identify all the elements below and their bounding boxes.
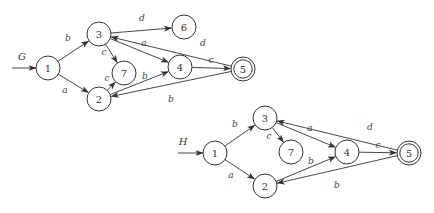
state-label: 1 — [212, 148, 218, 159]
edge-4-to-5 — [192, 67, 231, 68]
edge-3-to-7 — [105, 44, 117, 62]
edge-label: d — [367, 122, 373, 132]
state-label: 6 — [181, 22, 187, 33]
state-label: 2 — [262, 181, 268, 192]
state-node-7: 7 — [279, 140, 303, 164]
graph-h: Hbacabcdb123457 — [178, 106, 421, 198]
edge-label: b — [308, 156, 314, 166]
state-label: 4 — [344, 147, 350, 158]
edge-3-to-4 — [110, 39, 168, 63]
state-node-4: 4 — [168, 55, 192, 79]
graph-name-label: H — [178, 136, 188, 147]
graph-g: Gbadcacbcdb1234567 — [12, 13, 255, 111]
state-node-1: 1 — [203, 141, 227, 165]
state-node-2: 2 — [87, 87, 111, 111]
state-label: 1 — [45, 63, 51, 74]
state-label: 3 — [262, 113, 268, 124]
edge-label: a — [228, 170, 233, 180]
edge-label: a — [141, 38, 146, 48]
edge-label: b — [334, 180, 340, 190]
state-node-2: 2 — [253, 174, 277, 198]
state-label: 5 — [240, 64, 246, 75]
state-label: 2 — [96, 94, 102, 105]
state-label: 4 — [177, 62, 183, 73]
edge-label: b — [232, 119, 238, 129]
graph-name-label: G — [18, 51, 26, 62]
edge-label: c — [208, 55, 213, 65]
state-node-5: 5 — [397, 141, 421, 165]
edge-label: a — [62, 85, 67, 95]
state-label: 7 — [121, 68, 127, 79]
edge-label: b — [168, 94, 174, 104]
state-node-4: 4 — [335, 140, 359, 164]
edge-1-to-3 — [58, 41, 89, 61]
edge-label: d — [200, 38, 206, 48]
edge-3-to-6 — [111, 28, 172, 33]
edge-4-to-5 — [359, 152, 397, 153]
edge-2-to-7 — [107, 82, 115, 90]
state-node-5: 5 — [231, 57, 255, 81]
edge-label: b — [142, 71, 148, 81]
automata-diagram: Gbadcacbcdb1234567Hbacabcdb123457 — [0, 0, 434, 213]
edge-label: a — [307, 123, 312, 133]
edge-label: d — [139, 13, 145, 23]
edge-label: b — [65, 33, 71, 43]
edge-label: c — [266, 131, 271, 141]
state-node-6: 6 — [172, 15, 196, 39]
edge-1-to-3 — [225, 125, 255, 146]
state-node-7: 7 — [112, 61, 136, 85]
edge-label: c — [104, 73, 109, 83]
state-label: 7 — [288, 147, 294, 158]
edge-label: c — [101, 47, 106, 57]
state-node-1: 1 — [36, 56, 60, 80]
edge-3-to-7 — [272, 128, 283, 143]
state-label: 5 — [406, 148, 412, 159]
state-node-3: 3 — [253, 106, 277, 130]
state-node-3: 3 — [87, 22, 111, 46]
state-label: 3 — [96, 29, 102, 40]
